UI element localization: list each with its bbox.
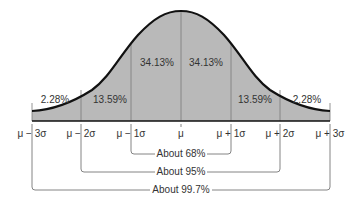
region-label: 2.28% xyxy=(41,94,69,105)
region-label: 13.59% xyxy=(93,94,127,105)
region-label: 2.28% xyxy=(293,94,321,105)
region-label: 34.13% xyxy=(189,57,223,68)
bracket-label-997: About 99.7% xyxy=(152,184,209,195)
region-label: 34.13% xyxy=(140,57,174,68)
axis-tick-label: μ − 3σ xyxy=(18,128,48,139)
axis-tick-label: μ + 2σ xyxy=(266,128,296,139)
normal-distribution-diagram: 2.28% 13.59% 34.13% 34.13% 13.59% 2.28% … xyxy=(0,0,364,205)
bracket-label-95: About 95% xyxy=(157,166,206,177)
axis-tick-label: μ xyxy=(178,128,184,139)
axis-tick-label: μ + 1σ xyxy=(217,128,247,139)
axis-tick-label: μ + 3σ xyxy=(316,128,346,139)
bracket-label-68: About 68% xyxy=(157,148,206,159)
axis-tick-label: μ − 1σ xyxy=(117,128,147,139)
axis-tick-label: μ − 2σ xyxy=(67,128,97,139)
region-label: 13.59% xyxy=(238,94,272,105)
